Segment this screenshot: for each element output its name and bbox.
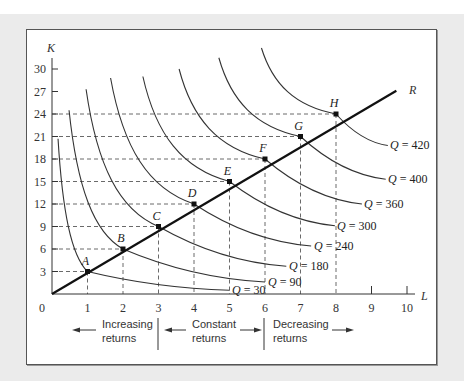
constant-label-2: returns [192, 332, 227, 344]
point-label: H [329, 96, 340, 110]
isoquant-curve [69, 110, 265, 282]
origin-label: 0 [39, 301, 45, 315]
decreasing-label-2: returns [273, 332, 308, 344]
isoquant-label: Q = 180 [289, 259, 328, 273]
x-tick-label: 9 [369, 301, 375, 315]
isoquant-curve [58, 139, 229, 291]
point-label: F [258, 141, 267, 155]
isoquant-label: Q = 240 [314, 239, 353, 253]
isoquant-label: Q = 90 [268, 275, 301, 289]
expansion-ray [52, 91, 396, 294]
isoquant-curve [143, 77, 335, 226]
point-label: A [81, 254, 90, 268]
right-arrowhead-icon [254, 328, 262, 333]
point-marker [227, 179, 232, 184]
y-tick-label: 24 [34, 107, 46, 121]
isoquant-label: Q = 360 [364, 197, 403, 211]
increasing-label-2: returns [102, 332, 137, 344]
point-label: G [294, 119, 303, 133]
point-label: C [152, 209, 161, 223]
x-tick-label: 10 [401, 301, 413, 315]
point-label: D [187, 186, 197, 200]
y-tick-label: 6 [40, 242, 46, 256]
x-tick-label: 3 [156, 301, 162, 315]
constant-label-1: Constant [192, 318, 236, 330]
point-marker [298, 134, 303, 139]
x-tick-label: 6 [262, 301, 268, 315]
x-tick-label: 2 [120, 301, 126, 315]
point-marker [85, 269, 90, 274]
y-tick-label: 9 [40, 220, 46, 234]
isoquant-labels: Q = 30Q = 90Q = 180Q = 240Q = 300Q = 360… [232, 138, 429, 297]
y-axis-title: K [46, 41, 56, 55]
right-arrowhead-icon [346, 328, 354, 333]
left-arrowhead-icon [72, 328, 80, 333]
isoquant-chart: 3691215182124273012345678910 ABCDEFGH Q … [0, 0, 464, 389]
isoquant-label: Q = 300 [337, 219, 376, 233]
point-marker [156, 224, 161, 229]
y-tick-label: 21 [34, 130, 46, 144]
isoquant-curve [111, 78, 312, 246]
returns-annotations: Increasing returns Constant returns Decr… [72, 318, 354, 350]
y-tick-label: 30 [34, 62, 46, 76]
ray-label: R [408, 83, 417, 97]
isoquant-label: Q = 30 [232, 283, 265, 297]
isoquant-label: Q = 400 [388, 172, 427, 186]
y-tick-label: 18 [34, 152, 46, 166]
left-arrowhead-icon [164, 328, 172, 333]
isoquant-curve [86, 89, 286, 266]
y-tick-label: 27 [34, 85, 46, 99]
x-tick-label: 5 [227, 301, 233, 315]
x-tick-label: 7 [298, 301, 304, 315]
increasing-label-1: Increasing [102, 318, 153, 330]
x-tick-label: 4 [191, 301, 197, 315]
axes: 3691215182124273012345678910 [34, 58, 415, 315]
isoquant-label: Q = 420 [390, 138, 429, 152]
point-marker [334, 112, 339, 117]
x-tick-label: 1 [85, 301, 91, 315]
point-label: E [223, 164, 232, 178]
point-marker [263, 157, 268, 162]
y-tick-label: 15 [34, 175, 46, 189]
expansion-path [52, 91, 396, 294]
y-tick-label: 12 [34, 197, 46, 211]
y-tick-label: 3 [40, 265, 46, 279]
point-label: B [117, 231, 125, 245]
decreasing-label-1: Decreasing [273, 318, 329, 330]
x-tick-label: 8 [333, 301, 339, 315]
x-axis-title: L [420, 289, 428, 303]
point-marker [121, 247, 126, 252]
point-marker [192, 202, 197, 207]
